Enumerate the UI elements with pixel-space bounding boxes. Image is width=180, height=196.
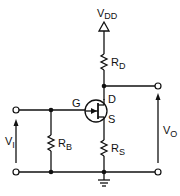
rs-ground-node [102, 170, 107, 175]
vi-top-terminal[interactable] [13, 107, 19, 113]
jfet-transistor-icon [85, 99, 107, 124]
vdd-supply-arrow-icon [99, 22, 109, 31]
rb-ground-node [49, 170, 54, 175]
rb-label: RB [58, 137, 72, 152]
rs-label: RS [111, 142, 125, 157]
drain-label: D [108, 93, 116, 105]
ground-icon [98, 180, 110, 186]
rs-resistor-icon [101, 140, 107, 156]
gate-label: G [72, 97, 81, 109]
vdd-label: VDD [97, 7, 118, 21]
vi-bottom-terminal[interactable] [13, 169, 19, 175]
circuit-diagram: VDD RD G D S RB RS [0, 0, 180, 196]
vo-bottom-terminal[interactable] [155, 169, 161, 175]
vi-label: VI [5, 135, 15, 150]
vo-label: VO [163, 124, 177, 139]
rb-resistor-icon [48, 135, 54, 151]
vo-top-terminal[interactable] [155, 83, 161, 89]
rd-resistor-icon [101, 54, 107, 70]
rd-label: RD [111, 56, 126, 71]
vo-arrow-icon [156, 93, 161, 163]
source-label: S [108, 113, 115, 125]
